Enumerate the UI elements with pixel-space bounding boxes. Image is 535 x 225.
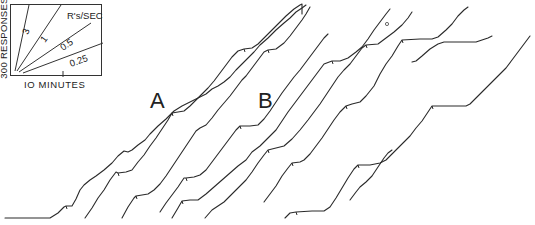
- reset-marker: [186, 178, 187, 181]
- small-circle-marker: [385, 22, 388, 25]
- record-b6: [412, 36, 492, 62]
- record-b4: [285, 36, 530, 218]
- record-b2: [205, 12, 412, 218]
- record-a3: [122, 7, 310, 218]
- reset-marker: [268, 150, 269, 153]
- reset-marker: [292, 163, 293, 166]
- reset-marker: [244, 49, 245, 52]
- record-a1: [5, 5, 306, 218]
- cumulative-records: [0, 0, 535, 225]
- record-b5: [350, 150, 392, 200]
- reset-marker: [268, 50, 269, 53]
- record-b1: [172, 9, 390, 218]
- record-a4: [160, 34, 328, 212]
- record-b3: [264, 7, 468, 202]
- reset-marker: [182, 201, 183, 204]
- cumulative-record-figure: 3 1 0.5 0.25 R's/SEC 300 RESPONSES IO MI…: [0, 0, 535, 225]
- reset-marker: [136, 196, 137, 199]
- reset-marker: [118, 173, 119, 176]
- reset-marker: [172, 113, 173, 116]
- reset-marker: [346, 106, 347, 109]
